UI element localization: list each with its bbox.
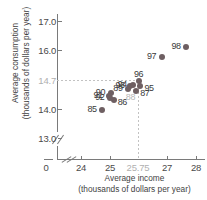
data-point-label-85: 85 [87,104,96,114]
data-point-label-95: 95 [144,83,153,93]
data-point-label-92: 92 [95,92,104,102]
data-point-label-96: 96 [134,69,143,79]
data-point-label-98: 98 [171,41,180,51]
data-point-label-97: 97 [147,51,156,61]
plot-area: 8586878889909192939495969798 [0,0,207,200]
scatter-chart: Average consumption (thousands of dollar… [0,0,207,200]
data-point-97[interactable] [159,54,165,60]
data-point-98[interactable] [183,44,189,50]
data-point-label-88: 88 [126,92,135,102]
data-point-label-94: 94 [118,79,127,89]
data-point-94[interactable] [130,82,136,88]
data-point-85[interactable] [99,107,105,113]
